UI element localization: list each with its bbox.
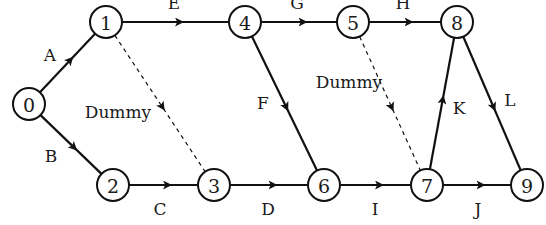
node-8: 8 (441, 6, 473, 38)
edge-label-f: F (257, 93, 269, 113)
node-label: 1 (100, 12, 112, 34)
node-label: 0 (23, 94, 35, 116)
edge-label-l: L (504, 90, 515, 110)
edge-label-j: J (473, 199, 482, 219)
node-3: 3 (198, 169, 230, 201)
node-label: 6 (318, 175, 330, 197)
node-5: 5 (337, 6, 369, 38)
edge-label-dummy: Dummy (85, 102, 152, 122)
edge-label-a: A (43, 45, 57, 65)
edge-label-k: K (453, 98, 466, 118)
node-label: 8 (451, 12, 463, 34)
network-diagram: 0123456789 ABCDEFGHIJKLDummyDummy (0, 0, 546, 225)
node-1: 1 (90, 6, 122, 38)
edge-label-dummy: Dummy (316, 72, 383, 92)
node-label: 7 (421, 175, 433, 197)
edge-label-b: B (45, 146, 58, 166)
edge-label-e: E (168, 0, 180, 13)
node-4: 4 (229, 6, 261, 38)
edge-line (430, 38, 454, 170)
edge-label-d: D (261, 199, 275, 219)
edge-label-c: C (153, 199, 166, 219)
node-6: 6 (308, 169, 340, 201)
node-9: 9 (511, 169, 543, 201)
edge-line (360, 37, 421, 171)
node-label: 4 (239, 12, 251, 34)
node-2: 2 (97, 169, 129, 201)
edge-label-i: I (372, 199, 379, 219)
node-label: 3 (208, 175, 220, 197)
node-0: 0 (13, 88, 45, 120)
node-label: 2 (107, 175, 119, 197)
node-label: 5 (347, 12, 359, 34)
edge-label-g: G (290, 0, 304, 13)
node-label: 9 (521, 175, 533, 197)
activity-7-8 (430, 38, 454, 170)
dummy-activity-5-7 (360, 37, 421, 171)
edge-label-h: H (396, 0, 411, 13)
node-7: 7 (411, 169, 443, 201)
